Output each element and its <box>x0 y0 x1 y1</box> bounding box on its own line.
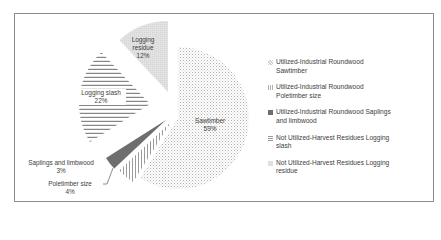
label-logging-residue: Logging residue 12% <box>124 36 162 60</box>
legend-item-sawtimber: Utilized-Industrial RoundwoodSawtimber <box>268 58 428 75</box>
chart-legend: Utilized-Industrial RoundwoodSawtimber U… <box>268 58 428 184</box>
label-poletimber: Poletimber size 4% <box>40 180 100 196</box>
legend-swatch-dotted <box>268 60 273 65</box>
label-sawtimber: Sawtimber 59% <box>190 117 230 133</box>
label-logging-slash: Logging slash 22% <box>76 89 126 105</box>
legend-item-saplings: Utilized-Industrial Roundwood Saplingsan… <box>268 108 428 125</box>
leader-line-poletimber <box>103 168 113 184</box>
legend-swatch-solid-dark <box>268 110 273 115</box>
legend-item-poletimber: Utilized-Industrial RoundwoodPoletimber … <box>268 83 428 100</box>
legend-swatch-vertical-lines <box>268 85 273 90</box>
label-saplings: Saplings and limbwood 3% <box>26 159 96 175</box>
legend-swatch-zigzag <box>268 136 273 141</box>
legend-swatch-light-grey <box>268 161 273 166</box>
legend-item-logging-slash: Not Utilized-Harvest Residues Loggingsla… <box>268 134 428 151</box>
legend-item-logging-residue: Not Utilized-Harvest Residues Loggingres… <box>268 159 428 176</box>
